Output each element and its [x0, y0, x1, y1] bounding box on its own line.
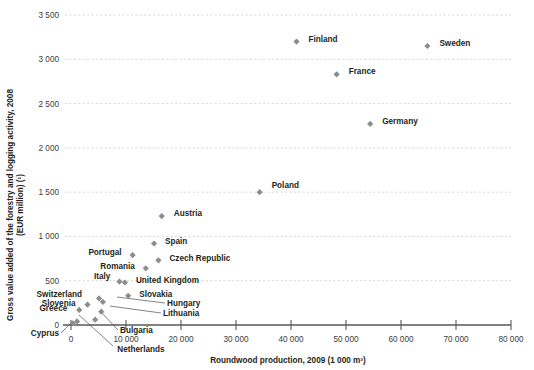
- data-point-marker: [84, 302, 90, 308]
- data-point-marker: [334, 71, 340, 77]
- y-tick-label: 500: [45, 277, 59, 286]
- data-points-group: [70, 38, 431, 326]
- x-tick-label: 40 000: [278, 335, 303, 344]
- data-point-label: Italy: [94, 272, 111, 281]
- point-labels-group: FinlandSwedenFranceGermanyPolandAustriaS…: [31, 35, 471, 354]
- y-tick-label: 1 500: [39, 188, 60, 197]
- x-tick-label: 0: [69, 335, 74, 344]
- x-tick-label: 80 000: [498, 335, 523, 344]
- data-point-marker: [143, 265, 149, 271]
- data-point-label: Finland: [309, 35, 338, 44]
- data-point-label: Sweden: [439, 39, 470, 48]
- data-point-marker: [367, 121, 373, 127]
- data-point-marker: [159, 213, 165, 219]
- x-tick-label: 30 000: [223, 335, 248, 344]
- y-axis-title-line1: Gross value added of the forestry and lo…: [6, 89, 15, 321]
- data-point-marker: [76, 307, 82, 313]
- callout-leader-line: [100, 311, 118, 330]
- data-point-marker: [257, 189, 263, 195]
- data-point-marker: [122, 279, 128, 285]
- data-point-label: Lithuania: [163, 309, 200, 318]
- data-point-label: Czech Republic: [169, 254, 230, 263]
- data-point-label: Slovakia: [139, 290, 173, 299]
- data-point-label: Bulgaria: [120, 326, 153, 335]
- y-tick-label: 2 500: [39, 100, 60, 109]
- y-axis-title-line2: (EUR million) (¹): [16, 174, 25, 236]
- x-tick-label: 70 000: [443, 335, 468, 344]
- scatter-chart: 010 00020 00030 00040 00050 00060 00070 …: [0, 0, 534, 370]
- data-point-label: Cyprus: [31, 329, 60, 338]
- y-tick-label: 2 000: [39, 144, 60, 153]
- chart-container: 010 00020 00030 00040 00050 00060 00070 …: [0, 0, 534, 370]
- data-point-label: Austria: [174, 209, 203, 218]
- gridlines-group: [65, 15, 511, 281]
- data-point-label: United Kingdom: [136, 276, 199, 285]
- data-point-marker: [98, 309, 104, 315]
- data-point-marker: [424, 43, 430, 49]
- x-tick-label: 20 000: [168, 335, 193, 344]
- callout-leader-line: [110, 306, 161, 313]
- data-point-label: Spain: [165, 237, 187, 246]
- x-axis-title: Roundwood production, 2009 (1 000 m³): [210, 356, 366, 365]
- data-point-label: Hungary: [167, 299, 201, 308]
- data-point-marker: [151, 240, 157, 246]
- data-point-label: Greece: [39, 304, 67, 313]
- data-point-marker: [155, 257, 161, 263]
- y-tick-label: 3 500: [39, 11, 60, 20]
- data-point-label: Poland: [272, 181, 299, 190]
- data-point-label: Germany: [382, 117, 418, 126]
- data-point-label: Portugal: [88, 248, 121, 257]
- y-axis-ticks-group: 05001 0001 5002 0002 5003 0003 500: [39, 11, 60, 330]
- data-point-label: Romania: [100, 262, 135, 271]
- y-tick-label: 3 000: [39, 55, 60, 64]
- data-point-marker: [130, 252, 136, 258]
- data-point-label: Netherlands: [117, 345, 165, 354]
- data-point-marker: [92, 317, 98, 323]
- x-tick-label: 60 000: [388, 335, 413, 344]
- data-point-marker: [116, 279, 122, 285]
- data-point-label: France: [349, 67, 376, 76]
- x-tick-label: 50 000: [333, 335, 358, 344]
- y-tick-label: 1 000: [39, 232, 60, 241]
- x-tick-label: 10 000: [113, 335, 138, 344]
- data-point-marker: [293, 38, 299, 44]
